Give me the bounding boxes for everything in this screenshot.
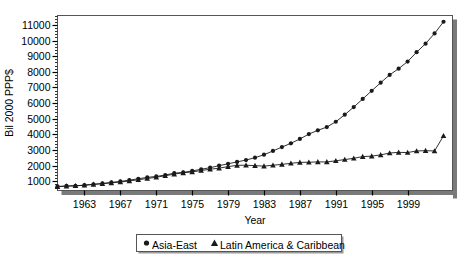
x-tick-label: 1975 [181, 198, 205, 210]
x-tick-label: 1963 [73, 198, 97, 210]
data-point-circle [316, 128, 320, 132]
data-point-circle [271, 149, 275, 153]
data-point-circle [289, 141, 293, 145]
y-tick-label: 8000 [27, 66, 51, 78]
y-axis-title: Bil 2000 PPP$ [3, 69, 15, 137]
x-tick-label: 1999 [397, 198, 421, 210]
chart-container: 1000200030004000500060007000800090001000… [0, 0, 467, 267]
data-point-circle [343, 113, 347, 117]
y-tick-label: 7000 [27, 81, 51, 93]
data-point-circle [352, 105, 356, 109]
data-point-circle [432, 31, 436, 35]
data-point-circle [253, 156, 257, 160]
y-tick-label: 3000 [27, 144, 51, 156]
x-tick-label: 1991 [325, 198, 349, 210]
data-point-circle [361, 97, 365, 101]
x-axis-title: Year [244, 214, 266, 226]
legend-label-asia-east: Asia-East [152, 239, 197, 251]
data-point-circle [325, 125, 329, 129]
data-point-circle [307, 132, 311, 136]
data-point-circle [379, 81, 383, 85]
data-point-circle [334, 120, 338, 124]
y-tick-label: 6000 [27, 97, 51, 109]
plot-shadow-right [453, 20, 457, 199]
legend-marker-circle [144, 240, 149, 245]
y-tick-label: 1000 [27, 175, 51, 187]
legend-label-latin-america-caribbean: Latin America & Caribbean [220, 239, 345, 251]
y-tick-label: 9000 [27, 50, 51, 62]
x-tick-label: 1987 [289, 198, 313, 210]
data-point-circle [262, 153, 266, 157]
y-tick-label: 11000 [22, 19, 51, 31]
data-point-circle [406, 59, 410, 63]
line-chart: 1000200030004000500060007000800090001000… [0, 0, 467, 267]
y-tick-label: 5000 [27, 113, 51, 125]
x-tick-label: 1971 [145, 198, 169, 210]
y-tick-label: 2000 [27, 160, 51, 172]
x-tick-label: 1995 [361, 198, 385, 210]
data-point-circle [441, 20, 445, 24]
data-point-circle [280, 145, 284, 149]
data-point-circle [423, 42, 427, 46]
data-point-circle [388, 73, 392, 77]
data-point-circle [298, 137, 302, 141]
x-tick-label: 1979 [217, 198, 241, 210]
x-tick-label: 1983 [253, 198, 277, 210]
data-point-circle [397, 67, 401, 71]
x-tick-label: 1967 [109, 198, 133, 210]
data-point-circle [244, 158, 248, 162]
data-point-circle [414, 50, 418, 54]
y-tick-label: 4000 [27, 128, 51, 140]
data-point-circle [370, 89, 374, 93]
y-tick-label: 10000 [21, 35, 50, 47]
